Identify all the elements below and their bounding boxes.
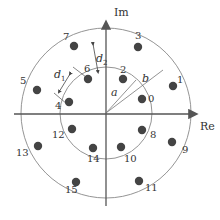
- point-label: 9: [182, 144, 188, 155]
- point-label: 5: [20, 75, 26, 86]
- point-label: 14: [87, 153, 100, 164]
- point-label: 6: [84, 63, 90, 74]
- constellation-point-12: [68, 125, 76, 133]
- constellation-point-0: [138, 95, 146, 103]
- point-label: 10: [124, 153, 137, 164]
- point-label: 15: [65, 184, 78, 195]
- constellation-point-3: [134, 43, 142, 51]
- constellation-point-10: [117, 143, 125, 151]
- point-label: 11: [145, 182, 158, 193]
- point-label: 7: [63, 31, 69, 42]
- re-label: Re: [200, 120, 215, 133]
- constellation-point-2: [119, 75, 127, 83]
- a-label: a: [111, 86, 118, 99]
- point-label: 12: [52, 129, 65, 140]
- constellation-point-14: [89, 144, 97, 152]
- constellation-point-5: [33, 86, 41, 94]
- d1-label: d1: [54, 68, 66, 83]
- im-label: Im: [114, 6, 129, 19]
- constellation-point-7: [70, 42, 78, 50]
- constellation-point-6: [84, 75, 92, 83]
- b-label: b: [142, 72, 149, 85]
- diagram-canvas: Re Im a b d1 d2 0123456789101112131415: [0, 0, 220, 220]
- point-label: 8: [150, 129, 156, 140]
- constellation-point-13: [34, 142, 42, 150]
- constellation-point-8: [138, 126, 146, 134]
- point-label: 13: [16, 147, 29, 158]
- constellation-point-9: [168, 138, 176, 146]
- point-label: 0: [148, 93, 154, 104]
- constellation-point-1: [169, 82, 177, 90]
- point-label: 4: [55, 100, 61, 111]
- constellation-diagram: Re Im a b d1 d2 0123456789101112131415: [0, 0, 220, 220]
- point-label: 3: [135, 30, 141, 41]
- constellation-point-11: [135, 177, 143, 185]
- constellation-point-4: [65, 98, 73, 106]
- point-label: 2: [120, 64, 126, 75]
- point-label: 1: [177, 74, 183, 85]
